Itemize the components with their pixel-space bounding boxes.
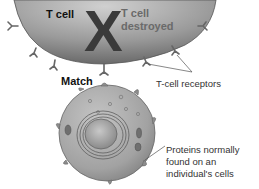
receptor-leader-lines bbox=[148, 55, 192, 72]
destroyed-x-mark: X bbox=[84, 4, 123, 58]
match-label: Match bbox=[61, 75, 93, 87]
immune-diagram: X T cell T cell destroyed Match T-cell r… bbox=[0, 0, 259, 189]
body-cell bbox=[56, 83, 156, 184]
t-cell-destroyed-label: T cell destroyed bbox=[121, 7, 181, 33]
proteins-callout: Proteins normally found on an individual… bbox=[166, 144, 258, 180]
t-cell-receptors-callout: T-cell receptors bbox=[156, 78, 221, 89]
t-cell-label: T cell bbox=[46, 8, 74, 20]
